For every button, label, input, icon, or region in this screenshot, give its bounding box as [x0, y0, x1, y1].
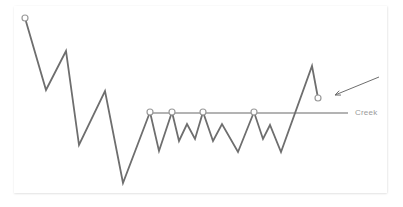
marker-circle	[169, 109, 175, 115]
marker-circle	[147, 109, 153, 115]
arrow-icon	[335, 77, 379, 95]
marker-circle	[200, 109, 206, 115]
price-line	[25, 18, 318, 183]
creek-label: Creek	[355, 108, 377, 117]
marker-circle	[315, 95, 321, 101]
marker-circle	[22, 15, 28, 21]
price-chart	[0, 0, 403, 207]
marker-circle	[251, 109, 257, 115]
